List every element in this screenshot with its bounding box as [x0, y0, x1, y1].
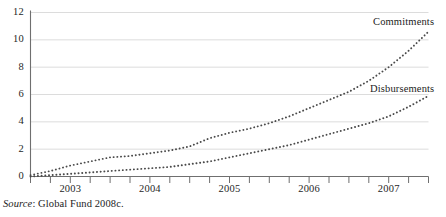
series-label-disbursements: Disbursements [370, 83, 434, 94]
x-tick-label-2006: 2006 [287, 184, 331, 195]
series-lines-group [31, 32, 429, 177]
gridlines-group [31, 13, 429, 150]
source-note: Source: Global Fund 2008c. [3, 198, 124, 210]
y-tick-label-8: 8 [2, 62, 24, 73]
y-tick-label-12: 12 [2, 7, 24, 18]
y-tick-label-2: 2 [2, 144, 24, 155]
axes-group [31, 11, 429, 177]
figure-container: 024681012 20032004200520062007 Commitmen… [0, 0, 446, 217]
x-tick-label-2005: 2005 [208, 184, 252, 195]
y-tick-label-10: 10 [2, 34, 24, 45]
x-tick-label-2004: 2004 [128, 184, 172, 195]
series-label-commitments: Commitments [373, 16, 434, 27]
source-note-text: : Global Fund 2008c. [32, 198, 123, 209]
source-note-prefix: Source [3, 198, 32, 209]
y-tick-label-6: 6 [2, 89, 24, 100]
y-tick-label-0: 0 [2, 171, 24, 182]
series-line-disbursements [31, 96, 429, 177]
series-line-commitments [31, 32, 429, 176]
x-tick-label-2007: 2007 [367, 184, 411, 195]
y-tick-label-4: 4 [2, 116, 24, 127]
x-tick-label-2003: 2003 [48, 184, 92, 195]
